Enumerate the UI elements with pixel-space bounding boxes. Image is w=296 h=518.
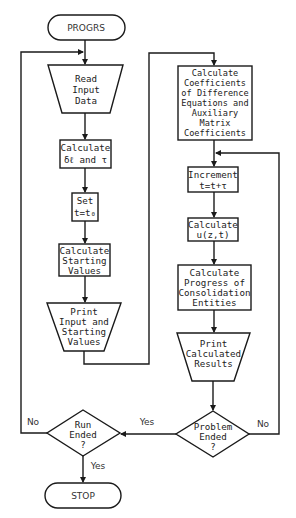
set-t-line-2: t=t₀ <box>74 207 96 218</box>
node-calc-start: Calculate Starting Values <box>59 244 110 276</box>
node-print-input: Print Input and Starting Values <box>47 303 121 351</box>
flowchart-canvas: PROGRS Read Input Data Calculate δℓ and … <box>0 0 296 518</box>
node-set-t: Set t=t₀ <box>72 193 98 221</box>
run-ended-line-3: ? <box>80 439 86 450</box>
node-problem-ended-decision: Problem Ended ? <box>176 411 249 457</box>
calc-u-line-2: u(z,t) <box>196 229 229 240</box>
node-print-results: Print Calculated Results <box>177 333 250 381</box>
edge-label-problem-no: No <box>257 419 270 429</box>
read-input-line-1: Read <box>75 73 97 84</box>
stop-label: STOP <box>71 491 95 501</box>
print-input-line-4: Values <box>67 336 100 347</box>
node-read-input: Read Input Data <box>48 65 123 113</box>
node-calc-delta: Calculate δℓ and τ <box>60 140 111 168</box>
node-start-terminal: PROGRS <box>48 15 125 40</box>
edge-label-run-no: No <box>27 417 40 427</box>
calc-coeff-line-6: Matrix <box>199 118 230 128</box>
read-input-line-2: Input <box>72 84 100 95</box>
calc-coeff-line-1: Calculate <box>192 68 239 78</box>
set-t-line-1: Set <box>77 195 94 206</box>
node-calc-u: Calculate u(z,t) <box>188 218 238 241</box>
increment-line-1: Increment <box>188 169 238 180</box>
start-label: PROGRS <box>67 23 105 33</box>
node-calc-coeff: Calculate Coefficients of Difference Equ… <box>178 66 252 140</box>
calc-coeff-line-3: of Difference <box>181 88 248 98</box>
node-calc-progress: Calculate Progress of Consolidation Enti… <box>178 265 251 310</box>
calc-start-line-3: Values <box>68 265 101 276</box>
calc-coeff-line-5: Auxiliary <box>192 108 239 118</box>
node-run-ended-decision: Run Ended ? <box>47 410 120 456</box>
edge-label-run-yes: Yes <box>90 461 106 471</box>
node-increment: Increment t=t+τ <box>188 167 238 192</box>
calc-delta-line-1: Calculate <box>61 142 111 153</box>
calc-delta-line-2: δℓ and τ <box>64 154 107 165</box>
print-results-line-3: Results <box>194 358 233 369</box>
problem-ended-line-3: ? <box>210 441 216 452</box>
calc-coeff-line-7: Coefficients <box>184 128 246 138</box>
read-input-line-3: Data <box>75 95 97 106</box>
node-stop-terminal: STOP <box>45 483 121 508</box>
edge-label-problem-yes: Yes <box>139 417 155 427</box>
calc-coeff-line-2: Coefficients <box>184 78 246 88</box>
calc-progress-line-4: Entities <box>192 297 236 308</box>
calc-coeff-line-4: Equations and <box>181 98 248 108</box>
increment-line-2: t=t+τ <box>199 180 227 191</box>
